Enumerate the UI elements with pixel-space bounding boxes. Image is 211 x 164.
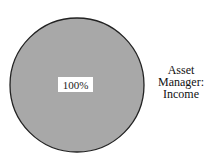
data-label: 100%: [63, 79, 89, 91]
legend-line: Income: [150, 88, 211, 100]
legend: Asset Manager: Income: [150, 64, 211, 100]
